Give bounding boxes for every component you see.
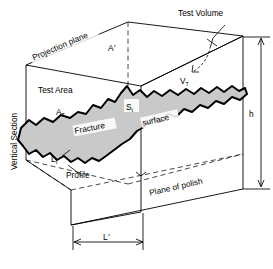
label-vertical-section: Vertical Section — [9, 112, 19, 170]
label-profile: Profile — [66, 170, 90, 180]
label-test-volume: Test Volume — [178, 8, 224, 18]
label-projection-plane: Projection plane — [31, 30, 90, 63]
fracture-surface-shape — [18, 86, 247, 163]
label-height-dimension: h — [249, 109, 254, 119]
test-volume-symbol-arrow — [194, 48, 210, 71]
label-test-volume-symbol: VT — [180, 76, 190, 87]
stereology-diagram: Projection plane A′ Test Volume VT Test … — [0, 0, 273, 269]
label-test-area-symbol: AT — [56, 107, 66, 118]
test-volume-symbol-arrowhead — [192, 65, 199, 72]
vertical-section-bottom-edge — [26, 160, 71, 190]
projection-plane-top-face — [26, 22, 243, 86]
test-volume-cross-mark — [207, 38, 217, 48]
label-length-dimension: L′ — [103, 232, 110, 242]
label-surface-area-symbol-group: St — [124, 99, 139, 113]
label-plane-of-polish: Plane of polish — [148, 176, 204, 198]
top-face-right-edge — [141, 36, 243, 86]
front-face-lower-left-edge — [71, 212, 141, 225]
figure-container: Projection plane A′ Test Volume VT Test … — [0, 0, 273, 269]
label-projected-area: A′ — [108, 43, 116, 53]
test-volume-leader — [213, 25, 225, 38]
label-test-area: Test Area — [38, 85, 73, 95]
fracture-surface-group — [18, 86, 247, 163]
